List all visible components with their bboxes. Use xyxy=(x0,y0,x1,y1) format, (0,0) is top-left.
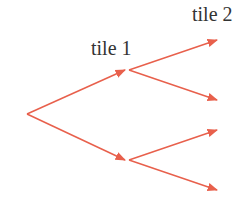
arrow-edge-1 xyxy=(27,114,125,160)
tile-1-label: tile 1 xyxy=(91,38,132,58)
arrow-edge-4 xyxy=(129,130,217,160)
tile-2-label: tile 2 xyxy=(192,4,233,24)
tree-edges xyxy=(0,0,243,216)
arrow-edge-5 xyxy=(129,160,217,190)
arrow-edge-3 xyxy=(129,70,217,100)
arrow-edge-2 xyxy=(129,40,217,70)
arrow-edge-0 xyxy=(27,70,125,114)
tree-diagram: tile 1 tile 2 xyxy=(0,0,243,216)
